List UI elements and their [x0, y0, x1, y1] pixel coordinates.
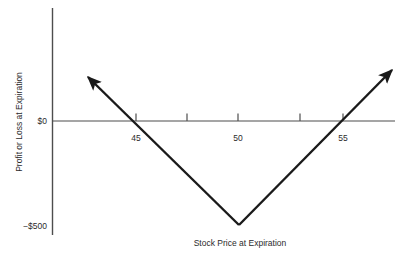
x-tick-label-55: 55: [338, 133, 348, 143]
payoff-diagram: 45 50 55 $0 −$500 Profit or Loss at Expi…: [0, 0, 412, 265]
x-tick-label-50: 50: [233, 133, 243, 143]
x-tick-label-45: 45: [131, 133, 141, 143]
payoff-left-branch: [88, 77, 239, 225]
chart-screenshot: 45 50 55 $0 −$500 Profit or Loss at Expi…: [0, 0, 412, 265]
payoff-right-branch: [239, 70, 392, 225]
x-axis-title: Stock Price at Expiration: [194, 238, 287, 248]
y-axis-title: Profit or Loss at Expiration: [14, 72, 24, 172]
y-tick-label-zero: $0: [38, 116, 48, 126]
y-tick-label-minus-500: −$500: [23, 221, 47, 231]
